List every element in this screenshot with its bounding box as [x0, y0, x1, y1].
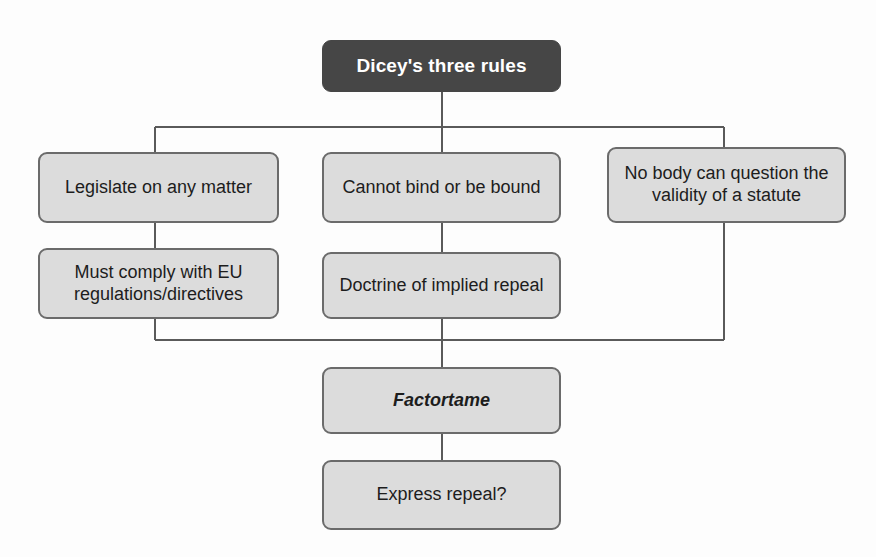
node-factortame-label: Factortame	[383, 390, 500, 412]
node-no-body-question[interactable]: No body can question the validity of a s…	[607, 147, 846, 223]
node-root[interactable]: Dicey's three rules	[322, 40, 561, 92]
node-implied-repeal[interactable]: Doctrine of implied repeal	[322, 252, 561, 319]
node-express-repeal[interactable]: Express repeal?	[322, 460, 561, 530]
node-cannot-bind[interactable]: Cannot bind or be bound	[322, 152, 561, 223]
node-cannot-bind-label: Cannot bind or be bound	[332, 177, 550, 199]
node-root-label: Dicey's three rules	[346, 54, 536, 77]
node-legislate[interactable]: Legislate on any matter	[38, 152, 279, 223]
node-express-repeal-label: Express repeal?	[366, 484, 516, 506]
node-factortame[interactable]: Factortame	[322, 367, 561, 434]
node-no-body-question-label: No body can question the validity of a s…	[614, 163, 838, 207]
node-eu-regulations-label: Must comply with EU regulations/directiv…	[64, 262, 253, 306]
node-eu-regulations[interactable]: Must comply with EU regulations/directiv…	[38, 248, 279, 319]
flowchart-diagram: Dicey's three rules Legislate on any mat…	[0, 0, 876, 557]
node-legislate-label: Legislate on any matter	[55, 177, 262, 199]
node-implied-repeal-label: Doctrine of implied repeal	[329, 275, 553, 297]
